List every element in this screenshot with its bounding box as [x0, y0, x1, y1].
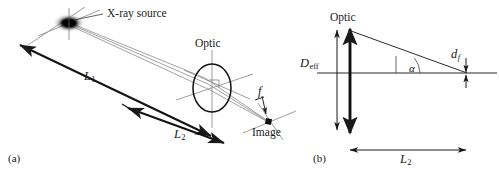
- optic-axes: [176, 50, 253, 128]
- panel-a-group: [20, 7, 296, 143]
- image-label: Image: [252, 127, 281, 139]
- panel-b-group: [317, 29, 497, 150]
- l2-label-a-base: L: [174, 127, 181, 141]
- d-eff-label-sub: eff: [309, 61, 319, 71]
- panel-a-caption: (a): [8, 153, 20, 164]
- df-label: df: [451, 48, 460, 62]
- l2-label-b-base: L: [400, 152, 407, 166]
- l2-label-a: L2: [174, 128, 186, 142]
- l1-label-base: L: [84, 69, 91, 83]
- optic-label-a: Optic: [195, 38, 221, 50]
- angle-arc: [415, 58, 421, 73]
- l2-origin-tick: [122, 104, 135, 112]
- df-label-sub: f: [457, 52, 460, 62]
- l1-label: L1: [84, 70, 96, 84]
- d-eff-label: Deff: [300, 57, 319, 71]
- l1-measure-arrow: [20, 45, 211, 136]
- angle-alpha-label: α: [409, 63, 415, 74]
- panel-b-caption: (b): [313, 153, 326, 164]
- figure-root: X-ray source Optic Image f L1 L2 (a) Opt…: [0, 0, 499, 176]
- beam-rays: [70, 23, 268, 122]
- l2-label-b-sub: 2: [407, 157, 412, 167]
- optic-label-b: Optic: [330, 12, 356, 24]
- l1-label-sub: 1: [91, 74, 96, 84]
- d-eff-label-base: D: [300, 56, 309, 70]
- diagram-canvas: [0, 0, 499, 176]
- image-point: [265, 118, 272, 125]
- focal-length-label: f: [258, 85, 261, 98]
- l2-label-a-sub: 2: [181, 132, 186, 142]
- l2-label-b: L2: [400, 153, 412, 167]
- focal-measure: [255, 96, 266, 114]
- x-ray-source-label: X-ray source: [107, 8, 167, 20]
